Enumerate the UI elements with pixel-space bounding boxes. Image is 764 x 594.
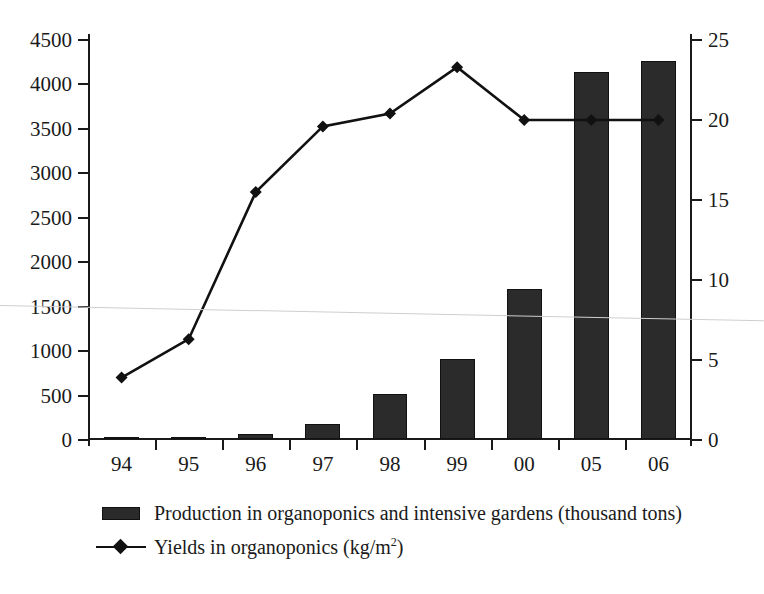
x-axis-tick (222, 440, 224, 450)
y-axis-left-tick (78, 39, 88, 41)
yield-marker-05 (585, 114, 597, 126)
y-axis-left-tick (78, 261, 88, 263)
x-axis-tick-label: 96 (245, 454, 266, 475)
x-axis-tick-label: 00 (514, 454, 535, 475)
chart-legend: Production in organoponics and intensive… (88, 496, 728, 564)
y-axis-right-tick-label: 0 (708, 430, 719, 451)
y-axis-right-tick-label: 10 (708, 270, 729, 291)
y-axis-left-tick-label: 2000 (30, 252, 72, 273)
y-axis-left-tick-label: 0 (62, 430, 73, 451)
y-axis-left-tick-label: 2500 (30, 207, 72, 228)
y-axis-left-tick-label: 1500 (30, 296, 72, 317)
x-axis-tick-label: 99 (447, 454, 468, 475)
x-axis-tick-label: 98 (380, 454, 401, 475)
y-axis-right-tick (692, 199, 702, 201)
y-axis-left-tick (78, 217, 88, 219)
x-axis-tick (356, 440, 358, 450)
y-axis-left-tick (78, 439, 88, 441)
x-axis-tick (289, 440, 291, 450)
y-axis-left-tick (78, 306, 88, 308)
legend-item-yields: Yields in organoponics (kg/m2) (88, 530, 728, 564)
x-axis-tick-label: 95 (178, 454, 199, 475)
x-axis-tick (155, 440, 157, 450)
y-axis-right-tick-label: 20 (708, 110, 729, 131)
y-axis-left-tick-label: 1000 (30, 341, 72, 362)
y-axis-right-tick (692, 279, 702, 281)
y-axis-left-tick-label: 4000 (30, 74, 72, 95)
y-axis-left-tick-label: 500 (41, 385, 73, 406)
y-axis-left-tick (78, 128, 88, 130)
plot-area: 050010001500200025003000350040004500 051… (88, 40, 692, 440)
x-axis-tick (491, 440, 493, 450)
yields-markers (116, 61, 665, 383)
y-axis-left-tick-label: 4500 (30, 30, 72, 51)
x-axis-tick-label: 94 (111, 454, 132, 475)
y-axis-right-tick (692, 119, 702, 121)
chart-figure: 050010001500200025003000350040004500 051… (0, 0, 764, 594)
legend-label-yields-prefix: Yields in organoponics (kg/m (154, 536, 391, 558)
y-axis-right-tick-label: 5 (708, 350, 719, 371)
legend-label-production: Production in organoponics and intensive… (154, 502, 682, 524)
y-axis-right-tick (692, 359, 702, 361)
legend-bar-swatch (88, 502, 154, 524)
x-axis-tick (625, 440, 627, 450)
yield-marker-95 (183, 333, 195, 345)
x-axis-tick (424, 440, 426, 450)
y-axis-left-tick-label: 3500 (30, 118, 72, 139)
legend-label-yields: Yields in organoponics (kg/m2) (154, 536, 404, 558)
y-axis-left-tick (78, 350, 88, 352)
y-axis-right-tick-label: 15 (708, 190, 729, 211)
legend-item-production: Production in organoponics and intensive… (88, 496, 728, 530)
y-axis-left-tick-label: 3000 (30, 163, 72, 184)
x-axis-tick-label: 05 (581, 454, 602, 475)
y-axis-right-tick (692, 39, 702, 41)
y-axis-right-tick (692, 439, 702, 441)
x-axis-tick-label: 06 (648, 454, 669, 475)
legend-label-yields-suffix: ) (397, 536, 404, 558)
x-axis-tick-label: 97 (312, 454, 333, 475)
x-axis-tick (558, 440, 560, 450)
legend-line-swatch (88, 536, 154, 558)
y-axis-left-tick (78, 83, 88, 85)
y-axis-left-tick (78, 395, 88, 397)
line-series (88, 40, 692, 440)
y-axis-left-tick (78, 172, 88, 174)
y-axis-right-tick-label: 25 (708, 30, 729, 51)
yield-marker-06 (652, 114, 664, 126)
yield-marker-94 (116, 372, 128, 384)
